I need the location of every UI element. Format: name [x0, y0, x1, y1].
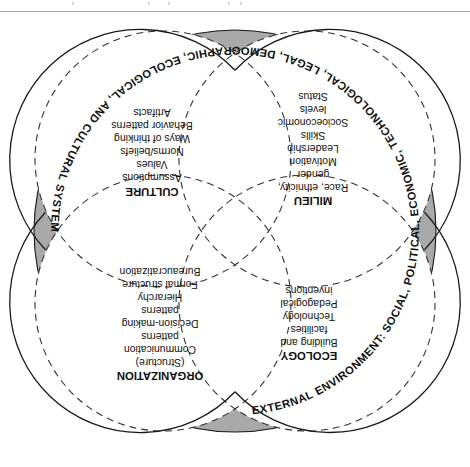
culture-item: Artifacts	[133, 107, 171, 118]
ecology-heading: ECOLOGY	[280, 350, 337, 362]
circles-white-union	[35, 31, 435, 431]
ecology-item: Pedagogical	[280, 298, 337, 309]
milieu-item: Race, ethnicity,	[278, 182, 348, 193]
culture-item: Behavior patterns	[111, 120, 192, 131]
milieu-item: Status	[298, 91, 327, 102]
organization-heading: ORGANIZATION	[117, 370, 203, 382]
organization-item: (Structure)	[135, 357, 184, 368]
milieu-item: Motivation	[289, 156, 337, 167]
organization-item: patterns	[141, 331, 179, 342]
milieu-heading: MILIEU	[294, 195, 332, 207]
milieu-item: Socioeconomic	[278, 117, 348, 128]
culture-item: Assumptions	[122, 172, 181, 183]
organization-item: Hierarchy	[137, 292, 182, 303]
ecology-item: Building and	[280, 337, 337, 348]
organization-item: patterns	[141, 305, 179, 316]
culture-heading: CULTURE	[125, 186, 179, 198]
organization-item: Decision-making	[121, 318, 198, 329]
culture-item: Values	[137, 159, 168, 170]
organization-item: Communication	[124, 344, 196, 355]
culture-item: Ways of thinking	[114, 133, 190, 144]
milieu-item: gender	[296, 169, 329, 180]
ecology-item: inventions	[286, 285, 333, 296]
diagram-canvas: CULTURE Assumptions Values Norms/beliefs…	[0, 0, 470, 467]
milieu-item: levels	[300, 104, 327, 115]
culture-item: Norms/beliefs	[120, 146, 184, 157]
ecology-item: Technology	[282, 311, 335, 322]
organization-item: Formal structure	[122, 279, 198, 290]
venn-diagram-figure: CULTURE Assumptions Values Norms/beliefs…	[0, 0, 470, 467]
organization-item: Bureaucratization	[119, 266, 200, 277]
milieu-item: Skills	[301, 130, 325, 141]
milieu-item: Leadership	[287, 143, 339, 154]
ecology-item: facilities	[291, 324, 328, 335]
